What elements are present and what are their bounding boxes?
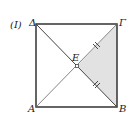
- figure-label: (I): [10, 20, 22, 30]
- point-b-label: B: [119, 104, 126, 114]
- center-point-e: [76, 65, 79, 68]
- shaded-triangle: [77, 24, 117, 107]
- point-e-label: E: [72, 53, 79, 63]
- point-gamma-label: Γ: [119, 18, 126, 28]
- point-a-label: A: [28, 104, 35, 114]
- point-delta-label: Δ: [29, 18, 36, 28]
